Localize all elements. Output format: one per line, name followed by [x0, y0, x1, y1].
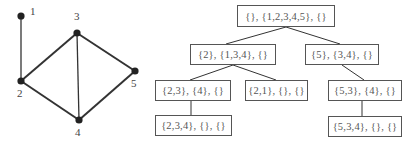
tree-node-n21: {2,1}, {}, {} [245, 80, 308, 101]
tree-node-n534: {5,3,4}, {}, {} [328, 116, 402, 137]
vertex-label: 4 [75, 127, 81, 138]
tree-node-n53: {5,3}, {4}, {} [328, 80, 402, 101]
tree-node-label: {5}, {3,4}, {} [311, 49, 373, 60]
graph-vertex-5 [131, 67, 138, 74]
tree-edge [342, 65, 364, 80]
tree-edges [190, 27, 364, 116]
tree-node-n23: {2,3}, {4}, {} [155, 80, 231, 101]
tree-node-label: {5,3,4}, {}, {} [333, 121, 398, 132]
tree-node-n234: {2,3,4}, {}, {} [155, 115, 232, 136]
vertex-label: 1 [30, 6, 36, 17]
tree-node-n5: {5}, {3,4}, {} [305, 44, 379, 65]
graph-edge-2-4 [21, 81, 79, 120]
vertex-label: 3 [74, 11, 80, 22]
tree-node-root: {}, {1,2,3,4,5}, {} [237, 5, 335, 27]
tree-edge [226, 27, 286, 44]
graph-edge-3-4 [77, 33, 79, 120]
tree-edge [286, 27, 340, 44]
tree-node-label: {2,3,4}, {}, {} [161, 120, 226, 131]
graph-vertex-3 [73, 29, 80, 36]
tree-node-n2: {2}, {1,3,4}, {} [190, 44, 276, 65]
tree-node-label: {2,1}, {}, {} [248, 85, 304, 96]
tree-node-label: {}, {1,2,3,4,5}, {} [245, 11, 326, 22]
graph-vertex-1 [17, 12, 24, 19]
tree-edge [190, 65, 233, 80]
graph-edge-3-5 [77, 33, 135, 71]
tree-edge [233, 65, 276, 80]
graph-edge-2-3 [21, 33, 77, 81]
graph-vertex-4 [75, 116, 82, 123]
vertex-label: 5 [131, 78, 137, 89]
tree-node-label: {2,3}, {4}, {} [162, 85, 224, 96]
tree-node-label: {5,3}, {4}, {} [334, 85, 396, 96]
graph-vertex-2 [17, 77, 24, 84]
vertex-label: 2 [17, 88, 23, 99]
graph-edge-4-5 [79, 71, 135, 120]
tree-node-label: {2}, {1,3,4}, {} [198, 49, 268, 60]
